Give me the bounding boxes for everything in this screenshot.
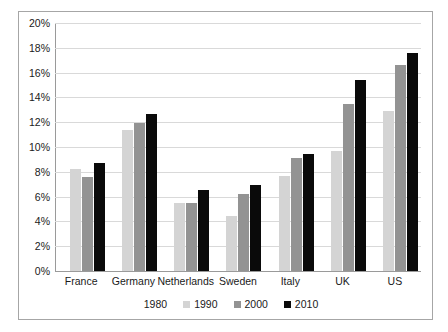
bar: [238, 194, 249, 271]
chart-frame: 0%2%4%6%8%10%12%14%16%18%20% FranceGerma…: [18, 11, 433, 320]
y-axis-tick-label: 20%: [29, 18, 50, 29]
x-axis-category-label: US: [388, 276, 403, 287]
bar: [383, 111, 394, 271]
bar: [198, 190, 209, 271]
legend-item-2010[interactable]: 2010: [284, 299, 318, 310]
bar-group: Italy: [264, 23, 316, 271]
legend-swatch-icon: [133, 301, 140, 308]
legend-label: 1980: [144, 299, 167, 310]
y-axis-tick-label: 0%: [35, 266, 50, 277]
bar: [174, 203, 185, 271]
bar: [134, 123, 145, 271]
y-axis-tick-label: 8%: [35, 167, 50, 178]
x-axis-category-label: Germany: [112, 276, 155, 287]
chart-legend: 1980199020002010: [19, 299, 432, 310]
plot-area: 0%2%4%6%8%10%12%14%16%18%20% FranceGerma…: [55, 23, 421, 272]
bar-group: UK: [316, 23, 368, 271]
bar-group: Netherlands: [160, 23, 212, 271]
y-axis-tick-label: 14%: [29, 92, 50, 103]
bar-group: France: [55, 23, 107, 271]
bar: [395, 65, 406, 271]
legend-swatch-icon: [234, 301, 241, 308]
bar-group: Sweden: [212, 23, 264, 271]
y-axis-tick-label: 16%: [29, 67, 50, 78]
bar: [94, 163, 105, 271]
bar-group: US: [369, 23, 421, 271]
bar: [279, 176, 290, 271]
bar: [70, 169, 81, 271]
bar: [355, 80, 366, 271]
y-axis-tick-label: 2%: [35, 241, 50, 252]
bar: [226, 216, 237, 271]
bar: [343, 104, 354, 271]
legend-label: 2000: [245, 299, 268, 310]
bar: [303, 154, 314, 271]
x-axis-category-label: Italy: [281, 276, 300, 287]
bar: [407, 53, 418, 271]
y-axis-tick-label: 10%: [29, 142, 50, 153]
legend-label: 1990: [194, 299, 217, 310]
y-axis-tick-label: 18%: [29, 43, 50, 54]
legend-item-1980[interactable]: 1980: [133, 299, 167, 310]
x-axis-category-label: Sweden: [219, 276, 257, 287]
legend-item-1990[interactable]: 1990: [183, 299, 217, 310]
legend-label: 2010: [295, 299, 318, 310]
bar: [291, 158, 302, 271]
y-axis-tick-label: 4%: [35, 216, 50, 227]
x-axis-category-label: France: [65, 276, 98, 287]
legend-swatch-icon: [284, 301, 291, 308]
bar-group: Germany: [107, 23, 159, 271]
x-axis-category-label: UK: [335, 276, 350, 287]
x-axis-category-label: Netherlands: [157, 276, 214, 287]
bar: [186, 203, 197, 271]
bar: [331, 151, 342, 271]
bar: [82, 177, 93, 271]
bar: [122, 130, 133, 271]
legend-item-2000[interactable]: 2000: [234, 299, 268, 310]
y-axis-tick-label: 12%: [29, 117, 50, 128]
gridline: [55, 271, 421, 272]
bar: [250, 185, 261, 271]
y-axis-tick-label: 6%: [35, 191, 50, 202]
bar: [146, 114, 157, 271]
legend-swatch-icon: [183, 301, 190, 308]
